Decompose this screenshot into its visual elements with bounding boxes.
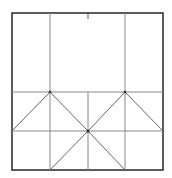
diagonal-right-down	[125, 92, 163, 131]
diagonal-bottom-left	[50, 131, 88, 170]
diagonal-left-down	[50, 92, 88, 131]
vertex-dot	[87, 130, 90, 133]
diagonal-left-up	[12, 92, 50, 131]
diagonal-bottom-right	[88, 131, 125, 170]
diagonal-right-up	[88, 92, 125, 131]
grid-diagram	[0, 0, 172, 178]
vertex-dot	[124, 91, 127, 94]
vertex-dot	[49, 91, 52, 94]
